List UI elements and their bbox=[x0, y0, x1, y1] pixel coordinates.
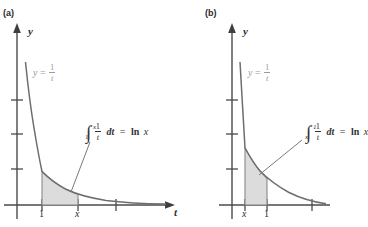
panel-b-curve-label-equals: = bbox=[255, 67, 261, 78]
panel-a-integral-upper-limit: x bbox=[93, 124, 96, 131]
panel-a-curve-label-fraction: 1 t bbox=[49, 63, 55, 82]
panel-b-x-tick-label-x: x bbox=[242, 208, 246, 219]
panel-b-y-axis-label: y bbox=[243, 25, 248, 37]
panel-a-y-axis-arrowhead bbox=[13, 23, 21, 33]
panel-b-curve-label-numerator: 1 bbox=[264, 63, 270, 72]
panel-a-curve-label-equals: = bbox=[40, 67, 46, 78]
panel-a-result-argument: x bbox=[144, 126, 148, 137]
panel-b-shaded-area bbox=[245, 148, 267, 205]
panel-a-result-function: ln bbox=[131, 126, 139, 137]
panel-a-x-tick-label-1: 1 bbox=[39, 208, 44, 219]
panel-a-curve-label-numerator: 1 bbox=[49, 63, 55, 72]
panel-b-integral-lower-limit: x bbox=[305, 134, 308, 141]
panel-b-curve-label-fraction: 1 t bbox=[264, 63, 270, 82]
panel-b-differential: dt bbox=[326, 126, 334, 137]
panel-a-integral-sign: ∫ x 1 bbox=[86, 127, 91, 139]
panel-b: (b) y x 1 y = bbox=[160, 0, 320, 227]
panel-b-integral-sign: ∫ 1 x bbox=[306, 127, 311, 139]
panel-a-y-axis-label: y bbox=[28, 25, 33, 37]
panel-b-integral-annotation: ∫ 1 x 1 t dt = ln x bbox=[306, 122, 368, 141]
panel-b-integral-upper-limit: 1 bbox=[313, 124, 317, 131]
panel-b-x-tick-label-1: 1 bbox=[264, 208, 269, 219]
panel-a-curve-label-denominator: t bbox=[49, 74, 55, 83]
panel-b-leader-line bbox=[259, 140, 302, 175]
panel-a-curve-label: y = 1 t bbox=[33, 63, 56, 82]
panel-a-annotation-equals: = bbox=[120, 126, 126, 137]
panel-b-result-function: ln bbox=[351, 126, 359, 137]
panel-b-curve-label-lhs: y bbox=[248, 67, 252, 78]
panel-a-integrand-denominator: t bbox=[95, 133, 101, 142]
panel-a-x-tick-label-x: x bbox=[75, 208, 79, 219]
panel-a-plot bbox=[0, 0, 160, 227]
panel-a-integral-annotation: ∫ x 1 1 t dt = ln x bbox=[86, 122, 148, 141]
panel-a-curve-label-lhs: y bbox=[33, 67, 37, 78]
panel-b-curve-label: y = 1 t bbox=[248, 63, 271, 82]
panel-a-differential: dt bbox=[106, 126, 114, 137]
panel-b-result-argument: x bbox=[364, 126, 368, 137]
panel-b-annotation-equals: = bbox=[340, 126, 346, 137]
panel-b-plot bbox=[160, 0, 320, 227]
panel-b-y-axis-arrowhead bbox=[228, 23, 236, 33]
panel-b-integrand-denominator: t bbox=[315, 133, 321, 142]
panel-b-curve-label-denominator: t bbox=[264, 74, 270, 83]
panel-a-leader-line bbox=[71, 142, 90, 192]
panel-a: (a) y t 1 x bbox=[0, 0, 160, 227]
panel-a-integral-lower-limit: 1 bbox=[85, 134, 89, 141]
